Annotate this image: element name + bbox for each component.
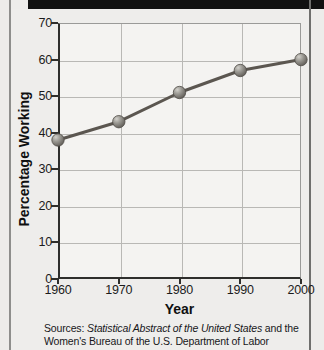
y-axis-tick-label: 30 xyxy=(12,162,52,176)
x-axis-tick-mark xyxy=(239,279,241,284)
data-point-marker[interactable] xyxy=(234,64,246,76)
x-axis-tick-mark xyxy=(118,279,120,284)
data-point-marker[interactable] xyxy=(113,116,125,128)
source-line-two: Women's Bureau of the U.S. Department of… xyxy=(44,335,269,347)
y-axis-tick-label: 40 xyxy=(12,126,52,140)
y-axis-tick-label: 60 xyxy=(12,53,52,67)
y-axis-tick-label: 20 xyxy=(12,199,52,213)
x-axis-tick-label: 1960 xyxy=(28,283,88,297)
y-axis-tick-mark xyxy=(51,95,58,97)
x-axis-tick-label: 1980 xyxy=(150,283,210,297)
y-axis-tick-label: 10 xyxy=(12,235,52,249)
y-axis-tick-mark xyxy=(51,205,58,207)
x-axis-tick-mark xyxy=(300,279,302,284)
y-axis-tick-mark xyxy=(51,241,58,243)
y-axis-tick-mark xyxy=(51,22,58,24)
data-point-marker[interactable] xyxy=(173,86,185,98)
series-markers xyxy=(52,53,307,146)
x-axis-tick-label: 1990 xyxy=(210,283,270,297)
data-series-layer xyxy=(58,23,301,279)
data-point-marker[interactable] xyxy=(295,53,307,65)
x-axis-title: Year xyxy=(58,301,301,317)
y-axis-tick-mark xyxy=(51,168,58,170)
figure-page: Percentage Working 010203040506070 19601… xyxy=(0,0,324,350)
y-axis-title: Percentage Working xyxy=(16,54,32,264)
y-axis-tick-label: 70 xyxy=(12,16,52,30)
series-line xyxy=(58,60,301,140)
y-axis-tick-mark xyxy=(51,59,58,61)
data-point-marker[interactable] xyxy=(52,134,64,146)
y-axis-tick-label: 50 xyxy=(12,89,52,103)
source-note: Sources: Statistical Abstract of the Uni… xyxy=(44,322,306,347)
x-axis-tick-label: 2000 xyxy=(271,283,324,297)
source-middle: and the xyxy=(262,322,299,334)
x-axis-tick-mark xyxy=(179,279,181,284)
y-axis-tick-mark xyxy=(51,132,58,134)
source-prefix: Sources: xyxy=(44,322,84,334)
x-axis-tick-mark xyxy=(57,279,59,284)
line-chart: Percentage Working 010203040506070 19601… xyxy=(0,0,324,350)
source-publication-title: Statistical Abstract of the United State… xyxy=(87,322,262,334)
x-axis-tick-label: 1970 xyxy=(89,283,149,297)
